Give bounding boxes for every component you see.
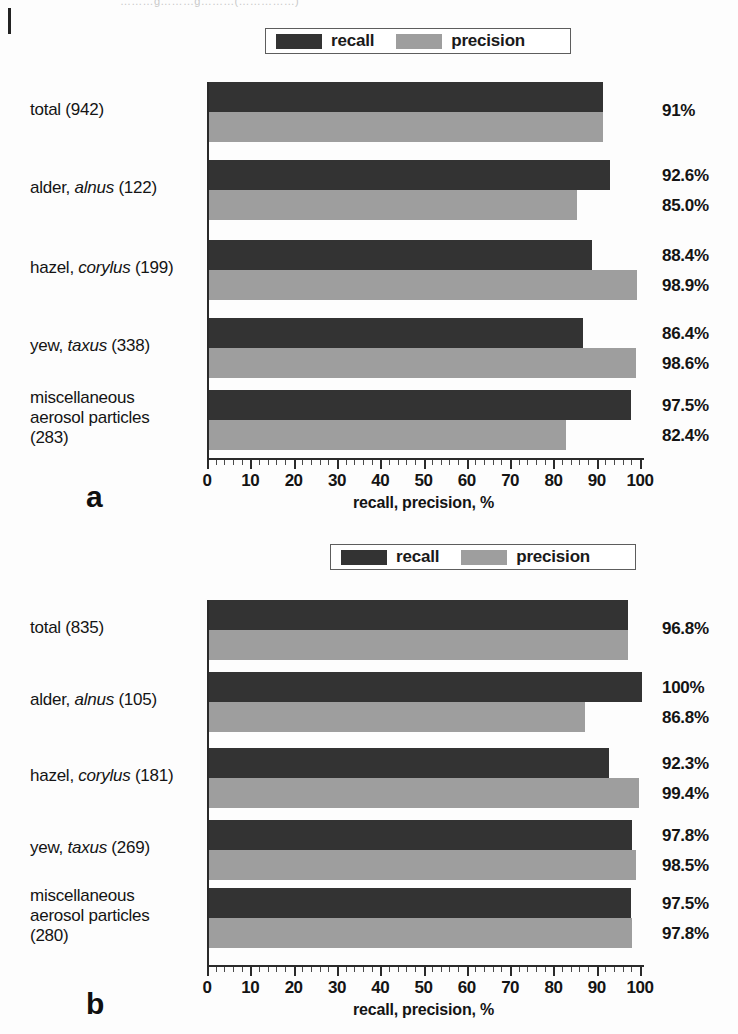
x-axis-tick-label: 80 xyxy=(533,471,573,491)
x-axis-minor-tick xyxy=(328,967,329,972)
x-axis-minor-tick xyxy=(415,967,416,972)
bar-recall xyxy=(209,390,631,420)
x-axis-minor-tick xyxy=(432,967,433,972)
x-axis-minor-tick xyxy=(519,967,520,972)
x-axis-minor-tick xyxy=(372,967,373,972)
x-axis-minor-tick xyxy=(605,460,606,465)
plot-area-b: 0102030405060708090100 xyxy=(207,600,644,977)
x-axis-tick-label: 70 xyxy=(490,978,530,998)
bar-recall xyxy=(209,820,632,850)
x-axis-title: recall, precision, % xyxy=(274,494,574,512)
bar-recall xyxy=(209,160,610,190)
x-axis-tick-label: 30 xyxy=(317,978,357,998)
bar-precision xyxy=(209,702,585,732)
x-axis-minor-tick xyxy=(415,460,416,465)
x-axis-minor-tick xyxy=(614,967,615,972)
x-axis-minor-tick xyxy=(562,967,563,972)
legend-swatch-precision xyxy=(396,34,442,49)
value-label-recall: 88.4% xyxy=(662,246,709,266)
x-axis-minor-tick xyxy=(285,967,286,972)
x-axis-minor-tick xyxy=(458,967,459,972)
x-axis-minor-tick xyxy=(449,967,450,972)
x-axis-minor-tick xyxy=(484,967,485,972)
x-axis-minor-tick xyxy=(346,967,347,972)
value-label-precision: 98.9% xyxy=(662,276,709,296)
x-axis-minor-tick xyxy=(631,967,632,972)
legend-label-recall: recall xyxy=(396,547,439,567)
x-axis-minor-tick xyxy=(614,460,615,465)
value-label-recall: 91% xyxy=(662,101,695,121)
x-axis-major-tick xyxy=(510,967,512,976)
x-axis-tick-label: 100 xyxy=(620,471,660,491)
x-axis-minor-tick xyxy=(363,460,364,465)
figure-panel-b: recallprecision0102030405060708090100rec… xyxy=(0,516,738,1034)
x-axis-major-tick xyxy=(510,460,512,469)
legend-label-recall: recall xyxy=(331,31,374,51)
bar-group xyxy=(209,318,642,378)
x-axis-minor-tick xyxy=(346,460,347,465)
x-axis-minor-tick xyxy=(432,460,433,465)
x-axis-minor-tick xyxy=(441,460,442,465)
figure-page: ………g………g………(……………) recallprecision010203… xyxy=(0,0,738,1034)
x-axis-major-tick xyxy=(467,967,469,976)
bar-group xyxy=(209,748,642,808)
category-label: total (942) xyxy=(30,100,210,120)
x-axis-minor-tick xyxy=(536,967,537,972)
x-axis-tick-label: 10 xyxy=(230,978,270,998)
category-label: alder, alnus (105) xyxy=(30,690,210,710)
chart-legend: recallprecision xyxy=(330,544,636,570)
legend-item-precision: precision xyxy=(461,547,590,567)
bar-precision xyxy=(209,778,639,808)
x-axis-major-tick xyxy=(597,460,599,469)
x-axis-minor-tick xyxy=(268,460,269,465)
x-axis-minor-tick xyxy=(623,460,624,465)
x-axis-title: recall, precision, % xyxy=(274,1001,574,1019)
legend-swatch-precision xyxy=(461,550,507,565)
x-axis-tick-label: 80 xyxy=(533,978,573,998)
x-axis-minor-tick xyxy=(354,967,355,972)
chart-legend: recallprecision xyxy=(265,28,571,54)
x-axis-minor-tick xyxy=(224,460,225,465)
bar-precision xyxy=(209,348,636,378)
x-axis-minor-tick xyxy=(579,460,580,465)
x-axis-tick-label: 70 xyxy=(490,471,530,491)
x-axis-major-tick xyxy=(597,967,599,976)
x-axis-tick-label: 0 xyxy=(187,978,227,998)
value-label-recall: 86.4% xyxy=(662,324,709,344)
bar-group xyxy=(209,888,642,948)
legend-label-precision: precision xyxy=(451,31,525,51)
value-label-precision: 98.5% xyxy=(662,856,709,876)
value-label-precision: 97.8% xyxy=(662,924,709,944)
value-label-recall: 97.5% xyxy=(662,894,709,914)
x-axis-major-tick xyxy=(250,460,252,469)
x-axis-minor-tick xyxy=(233,460,234,465)
bar-group xyxy=(209,672,642,732)
x-axis-minor-tick xyxy=(354,460,355,465)
bar-group xyxy=(209,600,642,660)
x-axis-tick-label: 60 xyxy=(447,978,487,998)
x-axis-minor-tick xyxy=(285,460,286,465)
x-axis-minor-tick xyxy=(484,460,485,465)
x-axis-tick-label: 40 xyxy=(360,471,400,491)
x-axis-major-tick xyxy=(207,460,209,469)
x-axis-minor-tick xyxy=(302,460,303,465)
x-axis-minor-tick xyxy=(372,460,373,465)
bar-group xyxy=(209,82,642,142)
x-axis-major-tick xyxy=(424,460,426,469)
x-axis-minor-tick xyxy=(493,967,494,972)
value-label-recall: 100% xyxy=(662,678,704,698)
x-axis-minor-tick xyxy=(406,967,407,972)
x-axis-major-tick xyxy=(640,460,642,469)
x-axis-minor-tick xyxy=(579,967,580,972)
category-label: miscellaneousaerosol particles(280) xyxy=(30,886,210,946)
x-axis-minor-tick xyxy=(398,967,399,972)
x-axis-minor-tick xyxy=(320,460,321,465)
value-label-recall: 92.6% xyxy=(662,166,709,186)
value-label-recall: 92.3% xyxy=(662,754,709,774)
bar-recall xyxy=(209,748,609,778)
category-label: yew, taxus (269) xyxy=(30,838,210,858)
x-axis-minor-tick xyxy=(588,460,589,465)
x-axis-major-tick xyxy=(424,967,426,976)
x-axis-minor-tick xyxy=(242,967,243,972)
x-axis-minor-tick xyxy=(363,967,364,972)
